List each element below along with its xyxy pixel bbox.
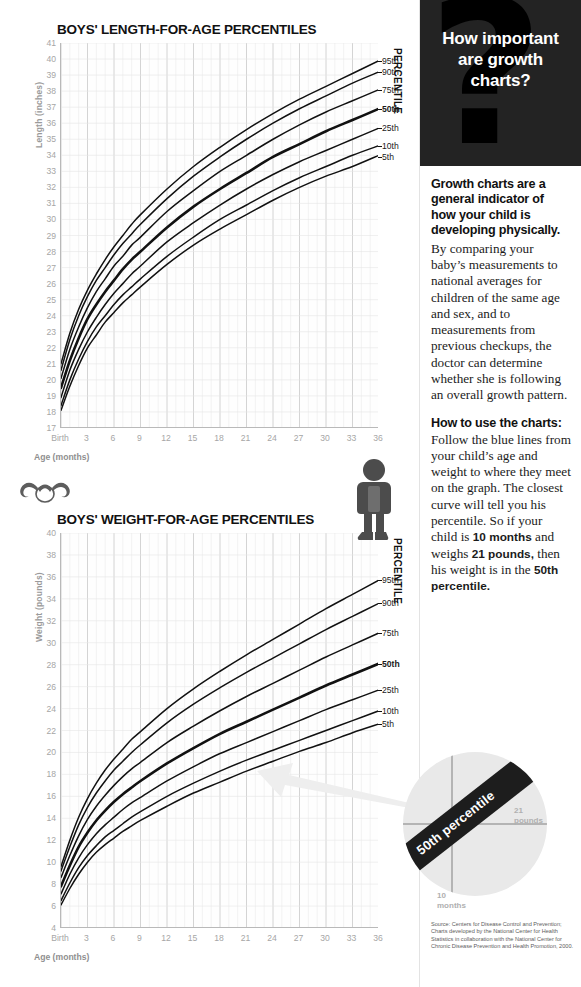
magnifier-age-unit: months — [437, 901, 466, 910]
percentile-leader-line — [378, 711, 382, 712]
ytick-label: 31 — [0, 198, 56, 208]
percentile-leader-line — [378, 72, 382, 73]
xtick-label: 12 — [161, 933, 171, 943]
ytick-label: 33 — [0, 166, 56, 176]
percentile-label-5th: 5th — [382, 719, 394, 729]
ytick-label: 39 — [0, 70, 56, 80]
ytick-label: 16 — [0, 791, 56, 801]
ytick-label: 12 — [0, 835, 56, 845]
percentile-curve-95th — [61, 580, 378, 866]
ytick-label: 30 — [0, 214, 56, 224]
ytick-label: 32 — [0, 616, 56, 626]
ytick-label: 21 — [0, 359, 56, 369]
percentile-leader-line — [378, 90, 382, 91]
xtick-label: 21 — [241, 433, 251, 443]
percentile-curve-90th — [61, 72, 378, 370]
length-chart-xlabel: Age (months) — [34, 452, 89, 462]
ytick-label: 37 — [0, 102, 56, 112]
weight-chart: BOYS' WEIGHT-FOR-AGE PERCENTILES Weight … — [0, 512, 420, 982]
ytick-label: 4 — [0, 923, 56, 933]
ytick-label: 30 — [0, 638, 56, 648]
ytick-label: 22 — [0, 343, 56, 353]
sidebar-howto-text: Follow the blue lines from your child’s … — [431, 432, 571, 595]
xtick-label: 15 — [188, 933, 198, 943]
percentile-label-50th: 50th — [382, 659, 400, 669]
percentile-leader-line — [378, 724, 382, 725]
ytick-label: 34 — [0, 150, 56, 160]
percentile-label-25th: 25th — [382, 123, 399, 133]
percentile-leader-line — [378, 157, 382, 158]
ytick-label: 23 — [0, 327, 56, 337]
percentile-curve-50th — [61, 109, 378, 388]
ytick-label: 22 — [0, 726, 56, 736]
xtick-label: 27 — [294, 933, 304, 943]
ytick-label: 10 — [0, 857, 56, 867]
percentile-label-10th: 10th — [382, 706, 399, 716]
ytick-label: 24 — [0, 311, 56, 321]
xtick-label: 27 — [294, 433, 304, 443]
ytick-label: 6 — [0, 901, 56, 911]
xtick-label: 36 — [373, 933, 383, 943]
percentile-curve-75th — [61, 633, 378, 878]
magnifier-weight-value: 21 — [514, 806, 523, 815]
callout-arrow — [255, 757, 420, 809]
percentile-label-75th: 75th — [382, 628, 399, 638]
boy-figure-icon — [352, 458, 396, 544]
percentile-leader-line — [378, 146, 382, 147]
xtick-label: 24 — [267, 433, 277, 443]
sidebar-header-title: How important are growth charts? — [420, 28, 581, 91]
percentile-label-5th: 5th — [382, 152, 394, 162]
ytick-label: 24 — [0, 704, 56, 714]
ytick-label: 41 — [0, 38, 56, 48]
percentile-leader-line — [378, 633, 382, 634]
ytick-label: 20 — [0, 747, 56, 757]
source-credit: Source: Centers for Disease Control and … — [431, 921, 577, 951]
howto-bold-weight: 21 pounds, — [472, 547, 534, 561]
percentile-curve-5th — [61, 724, 378, 905]
length-chart: BOYS' LENGTH-FOR-AGE PERCENTILES Length … — [0, 22, 420, 472]
magnifier-weight-unit: pounds — [514, 816, 543, 825]
ytick-label: 17 — [0, 423, 56, 433]
ytick-label: 38 — [0, 550, 56, 560]
xtick-label: 18 — [214, 933, 224, 943]
xtick-label: Birth — [51, 433, 69, 443]
ytick-label: 14 — [0, 813, 56, 823]
measuring-tape-icon — [16, 478, 74, 504]
length-chart-title: BOYS' LENGTH-FOR-AGE PERCENTILES — [57, 22, 316, 37]
percentile-leader-line — [378, 109, 382, 110]
weight-chart-plot — [60, 533, 378, 928]
xtick-label: 18 — [214, 433, 224, 443]
weight-chart-xlabel: Age (months) — [34, 952, 89, 962]
ytick-label: 25 — [0, 295, 56, 305]
xtick-label: 30 — [320, 433, 330, 443]
sidebar-header: ? How important are growth charts? — [420, 0, 581, 166]
magnifier-age-value: 10 — [437, 891, 446, 900]
ytick-label: 40 — [0, 54, 56, 64]
weight-chart-title: BOYS' WEIGHT-FOR-AGE PERCENTILES — [57, 512, 314, 527]
xtick-label: 30 — [320, 933, 330, 943]
xtick-label: 6 — [111, 433, 116, 443]
xtick-label: 36 — [373, 433, 383, 443]
ytick-label: 29 — [0, 231, 56, 241]
ytick-label: 32 — [0, 182, 56, 192]
ytick-label: 28 — [0, 660, 56, 670]
infographic-page: BOYS' LENGTH-FOR-AGE PERCENTILES Length … — [0, 0, 581, 987]
xtick-label: Birth — [51, 933, 69, 943]
percentile-curve-10th — [61, 146, 378, 406]
percentile-curve-90th — [61, 603, 378, 871]
percentile-leader-line — [378, 690, 382, 691]
percentile-leader-line — [378, 580, 382, 581]
ytick-label: 26 — [0, 279, 56, 289]
weight-chart-percentile-title: PERCENTILE — [392, 538, 403, 604]
xtick-label: 21 — [241, 933, 251, 943]
xtick-label: 9 — [137, 933, 142, 943]
magnifier-weight-label: 21 pounds — [514, 806, 543, 826]
sidebar-lead-text: Growth charts are a general indicator of… — [431, 177, 571, 239]
percentile-label-10th: 10th — [382, 141, 399, 151]
xtick-label: 33 — [347, 433, 357, 443]
howto-part-1: Follow the blue lines from your child’s … — [431, 432, 571, 545]
ytick-label: 35 — [0, 134, 56, 144]
xtick-label: 3 — [84, 933, 89, 943]
sidebar-subhead: How to use the charts: — [431, 416, 571, 431]
ytick-label: 28 — [0, 247, 56, 257]
